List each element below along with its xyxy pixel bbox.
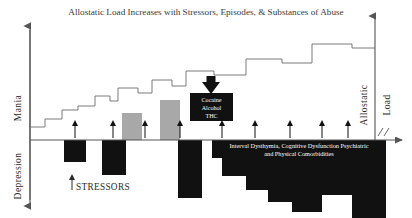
depression-bar — [64, 140, 86, 162]
stressors-label: STRESSORS — [76, 182, 130, 192]
double-slash-icon — [378, 128, 389, 136]
substance-line-3: THC — [205, 113, 217, 119]
stressor-arrow-icon — [319, 120, 325, 138]
stressor-arrow-icon — [345, 120, 351, 138]
substance-callout: Cocaine Alcohol THC — [190, 76, 233, 121]
stressors-legend: STRESSORS — [69, 174, 130, 192]
stressor-arrow-icon — [287, 120, 293, 138]
stressor-arrow-icon — [252, 120, 258, 138]
mania-bars — [122, 100, 180, 140]
stressor-arrow-icon — [142, 120, 148, 138]
stressor-arrows — [72, 120, 351, 138]
depression-bar — [178, 140, 202, 198]
axis-label-mania: Mania — [13, 94, 23, 121]
axis-label-depression: Depression — [13, 153, 23, 200]
stressor-arrow-icon — [72, 120, 78, 138]
stressor-arrow-icon — [219, 120, 225, 138]
axis-label-load: Load — [382, 94, 392, 115]
substance-line-1: Cocaine — [202, 97, 222, 103]
substance-line-2: Alcohol — [202, 105, 222, 111]
depression-bar — [102, 140, 126, 175]
depression-bars — [64, 140, 386, 218]
stressor-arrow-icon — [110, 120, 116, 138]
figure-canvas: Allostatic Load Increases with Stressors… — [0, 0, 412, 218]
page-title: Allostatic Load Increases with Stressors… — [68, 7, 343, 17]
mania-bar — [122, 113, 142, 140]
up-arrow-icon — [202, 76, 220, 94]
mania-bar — [160, 100, 180, 140]
axis-label-allostatic: Allostatic — [359, 85, 369, 126]
stressors-arrow-icon — [69, 174, 75, 190]
comorbidity-line-2: and Physical Comorbidities — [264, 150, 334, 157]
allostatic-load-figure: Allostatic Load Increases with Stressors… — [0, 0, 412, 218]
comorbidity-line-1: Interval Dysthymia, Cognitive Dysfunctio… — [229, 142, 368, 149]
